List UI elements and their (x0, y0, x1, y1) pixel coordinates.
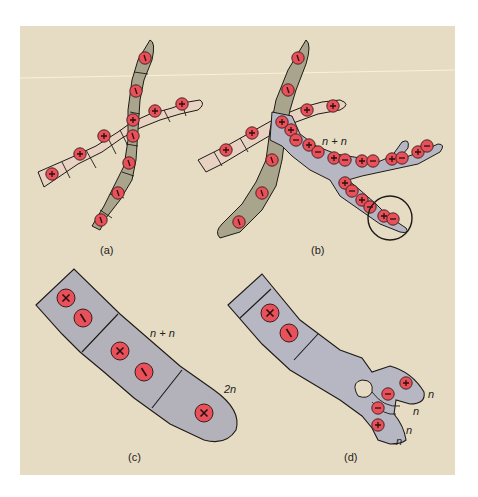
panel-label-d: (d) (344, 451, 357, 463)
annotation-n-4: n (396, 435, 402, 447)
annotation-n-3: n (406, 424, 412, 436)
clamp-loop (355, 380, 372, 397)
annotation-n-2: n (413, 405, 419, 417)
panel-label-b: (b) (311, 244, 324, 256)
annotation-n-plus-n-b: n + n (322, 135, 347, 147)
annotation-n-plus-n-c: n + n (150, 327, 175, 339)
annotation-2n: 2n (223, 383, 236, 395)
hyphae-diagram: (a) n + n (0, 0, 478, 497)
annotation-n-1: n (428, 388, 434, 400)
panel-label-c: (c) (128, 451, 141, 463)
panel-label-a: (a) (100, 244, 113, 256)
